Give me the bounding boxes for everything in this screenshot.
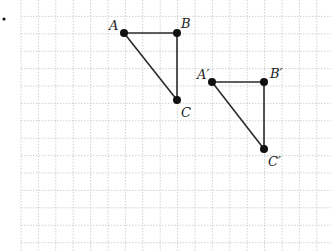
vertex-point [260,145,268,153]
vertex-label: B′ [269,66,283,81]
vertex-label: C′ [268,154,281,169]
vertex-label: A [108,18,118,33]
vertex-point [173,29,181,37]
vertex-label: C [181,105,191,120]
translation-diagram: ABCA′B′C′ [0,0,331,251]
vertex-point [120,29,128,37]
triangle-a-primeb-primec-prime: A′B′C′ [196,66,283,169]
vertex-label: B [180,16,191,31]
segment [212,82,264,149]
triangles: ABCA′B′C′ [108,16,283,169]
triangle-abc: ABC [108,16,191,120]
segment [124,33,177,100]
marker-dot [2,17,5,20]
grid [21,0,331,251]
vertex-point [173,96,181,104]
vertex-point [260,78,268,86]
vertex-label: A′ [196,67,209,82]
